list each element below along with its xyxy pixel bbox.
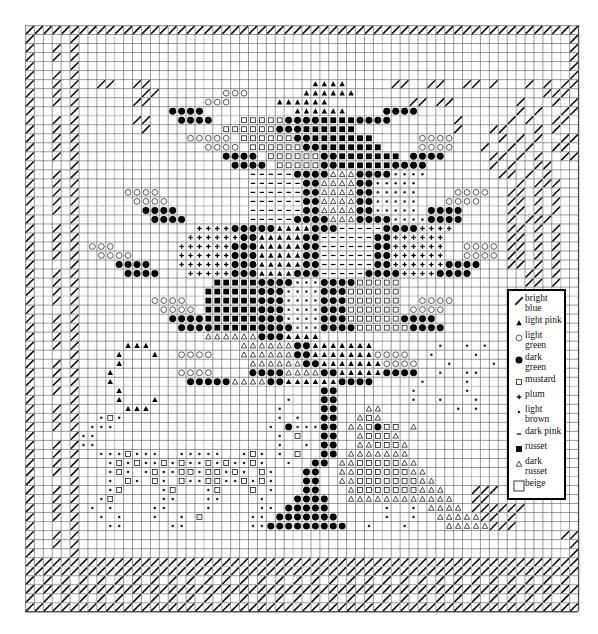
open-triangle-icon bbox=[464, 514, 469, 519]
slash-icon bbox=[526, 559, 533, 566]
slash-icon bbox=[27, 595, 34, 602]
filled-circle-icon bbox=[134, 270, 141, 277]
open-triangle-icon bbox=[411, 496, 416, 501]
open-circle-icon bbox=[437, 144, 443, 150]
slash-icon bbox=[71, 586, 78, 593]
filled-triangle-icon bbox=[357, 343, 362, 348]
slash-icon bbox=[71, 333, 78, 340]
filled-circle-icon bbox=[357, 378, 364, 385]
slash-icon bbox=[562, 27, 569, 34]
filled-circle-icon bbox=[339, 279, 346, 286]
open-square-small-icon bbox=[384, 488, 389, 493]
slash-icon bbox=[134, 559, 141, 566]
filled-triangle-icon bbox=[286, 262, 291, 267]
slash-icon bbox=[27, 577, 34, 584]
slash-icon bbox=[553, 604, 560, 611]
slash-icon bbox=[143, 604, 150, 611]
slash-icon bbox=[562, 577, 569, 584]
slash-icon bbox=[321, 559, 328, 566]
open-square-small-icon bbox=[384, 280, 389, 285]
asterisk-icon bbox=[412, 507, 414, 509]
plus-icon bbox=[447, 226, 451, 230]
filled-circle-icon bbox=[249, 162, 256, 169]
filled-circle-icon bbox=[312, 252, 319, 259]
plus-icon bbox=[179, 262, 183, 266]
slash-icon bbox=[27, 396, 34, 403]
open-square-small-icon bbox=[295, 433, 300, 438]
slash-icon bbox=[419, 577, 426, 584]
plus-icon bbox=[513, 392, 525, 402]
open-square-small-icon bbox=[277, 118, 282, 123]
filled-circle-icon bbox=[321, 432, 328, 439]
slash-icon bbox=[410, 99, 417, 106]
filled-circle-icon bbox=[374, 270, 381, 277]
slash-icon bbox=[80, 604, 87, 611]
slash-icon bbox=[27, 451, 34, 458]
open-triangle-icon bbox=[357, 433, 362, 438]
filled-triangle-icon bbox=[286, 379, 291, 384]
open-triangle-icon bbox=[339, 469, 344, 474]
slash-icon bbox=[348, 27, 355, 34]
slash-icon bbox=[160, 604, 167, 611]
asterisk-icon bbox=[118, 525, 120, 527]
asterisk-icon bbox=[296, 299, 298, 301]
asterisk-icon bbox=[296, 426, 298, 428]
asterisk-icon bbox=[493, 363, 495, 365]
slash-icon bbox=[374, 559, 381, 566]
slash-icon bbox=[151, 595, 158, 602]
filled-circle-icon bbox=[446, 270, 453, 277]
slash-icon bbox=[473, 595, 480, 602]
plus-icon bbox=[215, 226, 219, 230]
slash-icon bbox=[53, 406, 60, 413]
slash-icon bbox=[508, 144, 515, 151]
filled-triangle-icon bbox=[143, 343, 148, 348]
plus-icon bbox=[438, 226, 442, 230]
open-triangle-icon bbox=[295, 370, 300, 375]
open-triangle-icon bbox=[420, 478, 425, 483]
slash-icon bbox=[383, 577, 390, 584]
filled-circle-icon bbox=[419, 153, 426, 160]
slash-icon bbox=[473, 604, 480, 611]
filled-circle-icon bbox=[410, 225, 417, 232]
slash-icon bbox=[473, 586, 480, 593]
plus-icon bbox=[402, 244, 406, 248]
filled-circle-icon bbox=[249, 261, 256, 268]
asterisk-icon bbox=[207, 453, 209, 455]
slash-icon bbox=[401, 568, 408, 575]
slash-icon bbox=[339, 604, 346, 611]
slash-icon bbox=[27, 180, 34, 187]
slash-icon bbox=[508, 225, 515, 232]
filled-circle-icon bbox=[294, 270, 301, 277]
filled-circle-icon bbox=[125, 261, 132, 268]
filled-circle-icon bbox=[312, 225, 319, 232]
slash-icon bbox=[517, 252, 524, 259]
slash-icon bbox=[383, 604, 390, 611]
filled-circle-icon bbox=[312, 144, 319, 151]
slash-icon bbox=[53, 360, 60, 367]
slash-icon bbox=[98, 559, 105, 566]
plus-icon bbox=[224, 244, 228, 248]
filled-square-icon bbox=[339, 144, 345, 150]
plus-icon bbox=[429, 253, 433, 257]
slash-icon bbox=[134, 81, 141, 88]
plus-icon bbox=[179, 244, 183, 248]
slash-icon bbox=[535, 216, 542, 223]
slash-icon bbox=[27, 279, 34, 286]
filled-circle-icon bbox=[446, 216, 453, 223]
filled-circle-icon bbox=[205, 378, 212, 385]
slash-icon bbox=[125, 568, 132, 575]
slash-icon bbox=[401, 586, 408, 593]
filled-circle-icon bbox=[428, 315, 435, 322]
plus-icon bbox=[420, 262, 424, 266]
slash-icon bbox=[27, 315, 34, 322]
filled-circle-icon bbox=[330, 225, 337, 232]
filled-triangle-icon bbox=[322, 352, 327, 357]
filled-square-icon bbox=[321, 135, 327, 141]
filled-square-icon bbox=[223, 307, 229, 313]
open-square-small-icon bbox=[393, 470, 398, 475]
asterisk-icon bbox=[377, 209, 379, 211]
open-square-small-icon bbox=[393, 289, 398, 294]
slash-icon bbox=[44, 586, 51, 593]
asterisk-icon bbox=[287, 317, 289, 319]
slash-icon bbox=[71, 415, 78, 422]
